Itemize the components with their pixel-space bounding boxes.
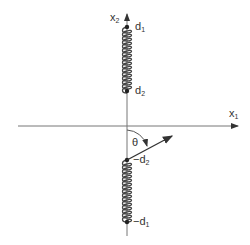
x2-axis-label: x2 — [110, 12, 119, 24]
theta-label: θ — [132, 137, 138, 148]
dipole-diagram — [0, 0, 250, 245]
point-d1 — [125, 25, 129, 29]
x1-axis-label: x1 — [229, 108, 238, 120]
point-d2 — [125, 89, 129, 93]
label-neg-d2: −d2 — [133, 154, 149, 166]
point-neg-d1 — [125, 220, 129, 224]
label-d2: d2 — [135, 85, 145, 97]
label-neg-d1: −d1 — [133, 216, 149, 228]
label-d1: d1 — [135, 21, 145, 33]
